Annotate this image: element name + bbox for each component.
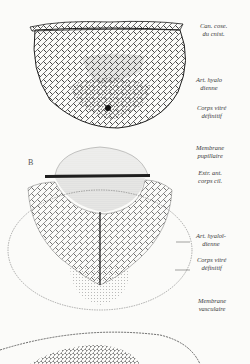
label-line: dienne: [196, 240, 226, 248]
label-line: définitif: [197, 264, 226, 272]
label-vitreous-b: Corps vitré définitif: [197, 256, 226, 272]
label-pupillary-membrane: Membrane pupillaire: [196, 144, 224, 160]
label-ciliary-body: Extr. ant. corps cil.: [198, 169, 222, 185]
label-hyaloid-artery-b: Art. hyaloï- dienne: [196, 232, 226, 248]
label-vascular-membrane: Membrane vasculaire: [198, 297, 226, 313]
panel-a-eye: [30, 21, 186, 128]
label-line: Can. cose.: [200, 22, 227, 30]
label-line: Corps vitré: [197, 256, 226, 264]
label-line: dienne: [196, 84, 222, 92]
label-line: Corps vitré: [197, 104, 226, 112]
label-line: pupillaire: [196, 152, 224, 160]
label-line: Extr. ant.: [198, 169, 222, 177]
label-line: vasculaire: [198, 305, 226, 313]
panel-c-eye: [0, 332, 200, 364]
label-line: Membrane: [198, 297, 226, 305]
label-line: corps cil.: [198, 177, 222, 185]
label-hyaloid-artery-a: Art. hyalo dienne: [196, 76, 222, 92]
label-line: du cnist.: [200, 30, 227, 38]
label-line: Membrane: [196, 144, 224, 152]
label-line: définitif: [197, 112, 226, 120]
label-line: Art. hyaloï-: [196, 232, 226, 240]
label-vitreous-a: Corps vitré définitif: [197, 104, 226, 120]
panel-b-eye: [8, 147, 192, 310]
label-cornea: Can. cose. du cnist.: [200, 22, 227, 38]
label-line: Art. hyalo: [196, 76, 222, 84]
panel-b-letter: B: [28, 158, 33, 167]
